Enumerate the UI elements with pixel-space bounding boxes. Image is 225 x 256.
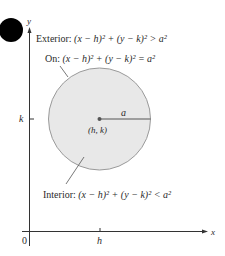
x-axis-arrow-icon (202, 230, 208, 234)
on-leader-line (60, 66, 68, 77)
y-axis-arrow-icon (28, 27, 32, 33)
y-axis-label: y (26, 16, 31, 26)
on-label: On: (x − h)² + (y − k)² = a² (45, 53, 156, 65)
interior-label: Interior: (x − h)² + (y − k)² < a² (43, 189, 172, 201)
origin-label: 0 (22, 235, 27, 246)
bullet-dot (0, 18, 23, 42)
circle-region-diagram: y x 0 h k a (h, k) Exterior: (x − h)² + … (0, 0, 225, 256)
x-tick-label-h: h (97, 235, 102, 246)
center-label: (h, k) (88, 125, 107, 135)
radius-label: a (121, 107, 126, 118)
y-tick-label-k: k (19, 113, 24, 124)
x-axis-label: x (210, 227, 215, 237)
exterior-label: Exterior: (x − h)² + (y − k)² > a² (36, 33, 168, 45)
